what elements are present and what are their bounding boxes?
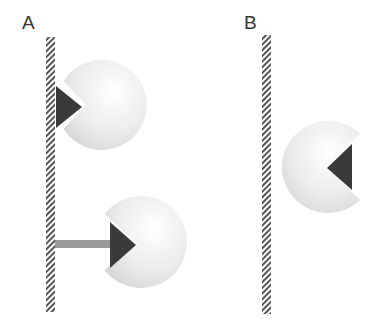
panel-b — [262, 35, 360, 314]
wall-b-hatched — [262, 35, 271, 314]
panel-a — [46, 37, 187, 312]
wall-a-hatched — [46, 37, 55, 312]
top-pacman-sphere — [56, 60, 147, 150]
bottom-pacman-sphere — [105, 196, 187, 288]
diagram-canvas — [0, 0, 378, 333]
connector-bar — [55, 240, 111, 248]
pacman-sphere-b — [282, 121, 360, 213]
